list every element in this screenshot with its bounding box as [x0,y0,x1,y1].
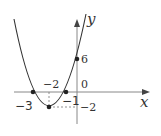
y-intercept-point [75,57,80,62]
root-left-label: −3 [15,100,33,112]
parabola-diagram: y x 6 0 −2 −2 −3 −1 [0,0,161,136]
root-left-point [31,90,36,95]
graph-canvas [0,0,161,136]
vertex-y-label: −2 [80,102,96,113]
origin-label: 0 [81,79,88,90]
y-axis-label: y [87,12,95,27]
x-axis-label: x [140,95,148,110]
y-axis-arrow-icon [74,19,80,27]
root-right-label: −1 [62,95,80,107]
vertex-x-label: −2 [43,79,59,90]
vertex-point [47,105,52,110]
y-intercept-label: 6 [81,54,88,65]
